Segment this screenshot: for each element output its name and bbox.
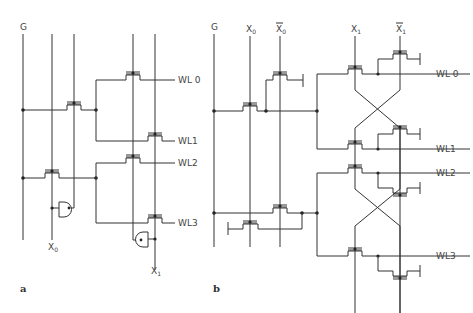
wire-wl0-a bbox=[96, 75, 175, 80]
wire-wl1-a bbox=[96, 136, 175, 141]
label-x1-a: X1 bbox=[151, 266, 161, 277]
label-wl2-b: WL2 bbox=[436, 168, 456, 178]
wire-wl2-a bbox=[96, 158, 175, 163]
label-g-b: G bbox=[211, 22, 218, 32]
label-wl0-a: WL 0 bbox=[178, 75, 201, 85]
gate-x0-a bbox=[59, 202, 72, 217]
panel-b: G X0 X0 X1 X1 WL 0 WL1 WL2 WL3 b bbox=[211, 22, 470, 313]
label-wl0-b: WL 0 bbox=[436, 69, 459, 79]
panel-a: G X0 X1 WL 0 WL1 WL2 WL3 a bbox=[20, 22, 201, 294]
label-x1-b: X1 bbox=[351, 24, 361, 35]
label-wl1-a: WL1 bbox=[178, 136, 198, 146]
label-wl2-a: WL2 bbox=[178, 158, 198, 168]
panel-label-a: a bbox=[20, 283, 27, 294]
wire-x0-pull bbox=[228, 213, 302, 229]
label-wl1-b: WL1 bbox=[436, 144, 456, 154]
wire-a-bottom bbox=[23, 173, 96, 178]
label-x0-b: X0 bbox=[246, 24, 256, 35]
label-x0bar-b: X0 bbox=[276, 24, 286, 35]
label-g-a: G bbox=[20, 22, 27, 32]
label-wl3-b: WL3 bbox=[436, 251, 456, 261]
wire-a-top bbox=[23, 105, 96, 110]
wire-x0bar-pull bbox=[266, 75, 303, 111]
label-x1bar-b: X1 bbox=[396, 24, 406, 35]
wire-wl3-a bbox=[96, 218, 175, 223]
decoder-circuit-figure: G X0 X1 WL 0 WL1 WL2 WL3 a bbox=[0, 0, 473, 313]
label-wl3-a: WL3 bbox=[178, 218, 198, 228]
panel-label-b: b bbox=[213, 283, 220, 294]
label-x0-a: X0 bbox=[48, 242, 58, 253]
